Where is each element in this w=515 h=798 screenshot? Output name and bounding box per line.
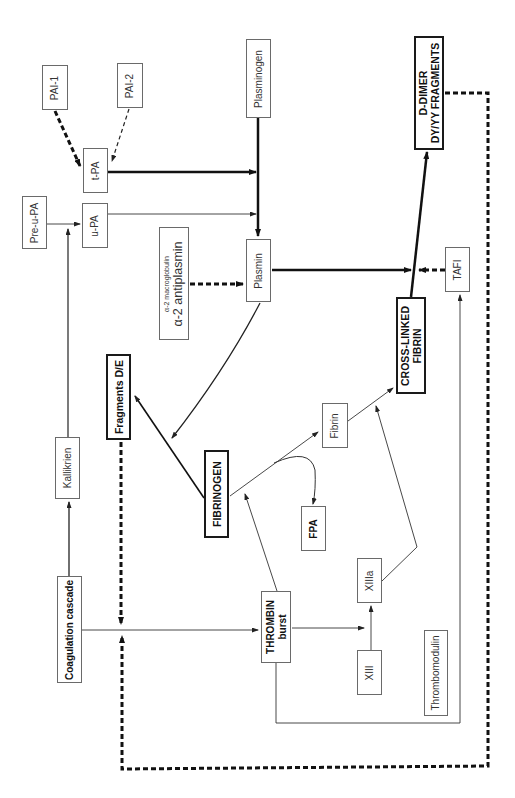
- node-pai1-label: PAI-1: [49, 75, 61, 99]
- node-ddimer-label: D-DIMER DY/YY FRAGMENTS: [417, 43, 441, 144]
- node-fragments-de: Fragments D/E: [106, 354, 131, 440]
- edge-pai2-tpa: [112, 109, 129, 161]
- node-fibrin: Fibrin: [322, 403, 348, 448]
- node-thrombomodulin-label: Thrombomodulin: [430, 635, 442, 710]
- alpha2-macroglobulin-text: α-2 macroglobulin: [163, 241, 171, 326]
- node-xiiia: XIIIa: [357, 558, 382, 603]
- thrombin-line2: burst: [276, 600, 288, 654]
- node-ddimer: D-DIMER DY/YY FRAGMENTS: [414, 36, 444, 150]
- node-upa: u-PA: [82, 203, 108, 248]
- node-tafi-label: TAFI: [452, 259, 464, 280]
- edge-fibrinogen-fibrin: [230, 432, 318, 496]
- node-crosslinked-label: CROSS-LINKED FIBRIN: [399, 306, 423, 386]
- node-upa-label: u-PA: [89, 215, 101, 237]
- node-tpa-label: t-PA: [90, 161, 102, 180]
- edge-fibrin-crosslinked: [348, 388, 393, 421]
- node-kallikrien: Kallikrien: [55, 437, 80, 499]
- edge-fibrinogen-fpa: [274, 456, 315, 504]
- node-kallikrien-label: Kallikrien: [62, 448, 74, 489]
- node-thrombin-burst: THROMBIN burst: [261, 591, 291, 663]
- node-crosslinked-fibrin: CROSS-LINKED FIBRIN: [396, 297, 426, 394]
- node-plasmin-label: Plasmin: [253, 253, 265, 289]
- node-xiii: XIII: [357, 650, 382, 695]
- node-fibrin-label: Fibrin: [329, 413, 341, 438]
- thrombin-line1: THROMBIN: [265, 600, 277, 654]
- node-preupa-label: Pre-u-PA: [29, 202, 41, 242]
- node-thrombin-label: THROMBIN burst: [265, 600, 288, 654]
- node-xiiia-label: XIIIa: [364, 570, 376, 591]
- node-plasminogen: Plasminogen: [246, 39, 271, 118]
- node-fibrinogen-label: FIBRINOGEN: [210, 461, 222, 527]
- alpha2-antiplasmin-text: α-2 antiplasmin: [171, 241, 185, 326]
- node-antiplasmin: α-2 macroglobulin α-2 antiplasmin: [159, 227, 189, 340]
- edge-thrombin-fibrinogen: [245, 494, 277, 591]
- node-pai2: PAI-2: [117, 63, 143, 108]
- node-plasmin: Plasmin: [246, 239, 271, 302]
- node-pai1: PAI-1: [42, 65, 68, 110]
- node-thrombomodulin: Thrombomodulin: [424, 630, 448, 716]
- node-fibrinogen: FIBRINOGEN: [204, 450, 229, 538]
- node-coagulation-cascade: Coagulation cascade: [57, 576, 82, 683]
- crosslinked-line1: CROSS-LINKED: [399, 306, 411, 386]
- node-xiii-label: XIII: [364, 665, 376, 680]
- node-tafi: TAFI: [445, 247, 470, 292]
- crosslinked-line2: FIBRIN: [411, 306, 423, 386]
- node-preupa: Pre-u-PA: [22, 196, 47, 249]
- edge-pai1-tpa: [55, 111, 80, 166]
- edge-fibrinogen-fragments: [135, 396, 204, 498]
- ddimer-line1: D-DIMER: [417, 43, 429, 144]
- edge-crosslinked-ddimer: [411, 152, 427, 297]
- node-fpa-label: FPA: [308, 519, 320, 538]
- edge-xiiia-crosslinked: [376, 406, 417, 581]
- ddimer-line2: DY/YY FRAGMENTS: [429, 43, 441, 144]
- node-antiplasmin-label: α-2 macroglobulin α-2 antiplasmin: [163, 241, 185, 326]
- node-coagulation-label: Coagulation cascade: [64, 579, 76, 679]
- node-tpa: t-PA: [83, 148, 108, 193]
- node-fpa: FPA: [301, 506, 326, 551]
- node-pai2-label: PAI-2: [124, 73, 136, 97]
- node-fragments-label: Fragments D/E: [112, 360, 124, 434]
- node-plasminogen-label: Plasminogen: [253, 50, 265, 108]
